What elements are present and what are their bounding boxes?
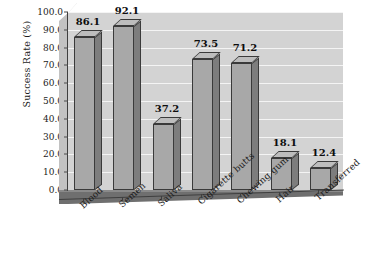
y-tick-label: 40.0 [13,114,63,124]
x-tick-mark [240,193,241,197]
bar-side-face [213,54,220,190]
y-tick-mark [64,172,68,173]
y-tick-label: 100.0 [13,7,63,17]
bar-front-face [74,37,95,190]
bar-front-face [113,26,134,190]
bar[interactable] [192,52,220,190]
bar-front-face [153,124,174,190]
bar-chart-figure: Success Rate (%) 0.010.020.030.040.050.0… [0,0,367,267]
x-tick-mark [279,192,280,196]
bar-front-face [192,59,213,190]
y-axis-tick-labels: 0.010.020.030.040.050.060.070.080.090.01… [13,12,63,190]
y-tick-label: 20.0 [13,149,63,159]
y-tick-label: 80.0 [13,43,63,53]
y-tick-mark [64,101,68,102]
bar-side-face [95,31,102,190]
gridline [68,30,343,31]
y-tick-label: 50.0 [13,96,63,106]
bar-value-label: 92.1 [107,5,147,16]
y-tick-mark [64,118,68,119]
y-tick-mark [64,190,68,191]
bar[interactable] [113,19,141,190]
y-tick-mark [64,83,68,84]
x-tick-mark [83,198,84,202]
bar-value-label: 12.4 [304,147,344,158]
bar-value-label: 71.2 [225,42,265,53]
y-tick-mark [64,136,68,137]
y-tick-mark [64,65,68,66]
bar[interactable] [74,30,102,190]
bar-value-label: 37.2 [147,103,187,114]
bar-side-face [134,21,141,190]
bar-side-face [174,118,181,190]
y-tick-label: 90.0 [13,25,63,35]
y-tick-label: 10.0 [13,167,63,177]
bar-value-label: 73.5 [186,38,226,49]
bar-value-label: 18.1 [265,137,305,148]
y-tick-mark [64,154,68,155]
y-tick-label: 70.0 [13,60,63,70]
y-tick-mark [64,47,68,48]
x-tick-mark [318,190,319,194]
y-axis-line [67,12,68,191]
bar-value-label: 86.1 [68,16,108,27]
y-tick-mark [64,12,68,13]
bar[interactable] [153,117,181,190]
x-tick-mark [122,197,123,201]
y-tick-label: 60.0 [13,78,63,88]
x-tick-mark [161,196,162,200]
y-tick-mark [64,29,68,30]
bar-side-face [252,58,259,190]
bar-side-face [292,152,299,190]
y-tick-label: 30.0 [13,132,63,142]
x-tick-mark [201,194,202,198]
y-tick-label: 0.0 [13,185,63,195]
